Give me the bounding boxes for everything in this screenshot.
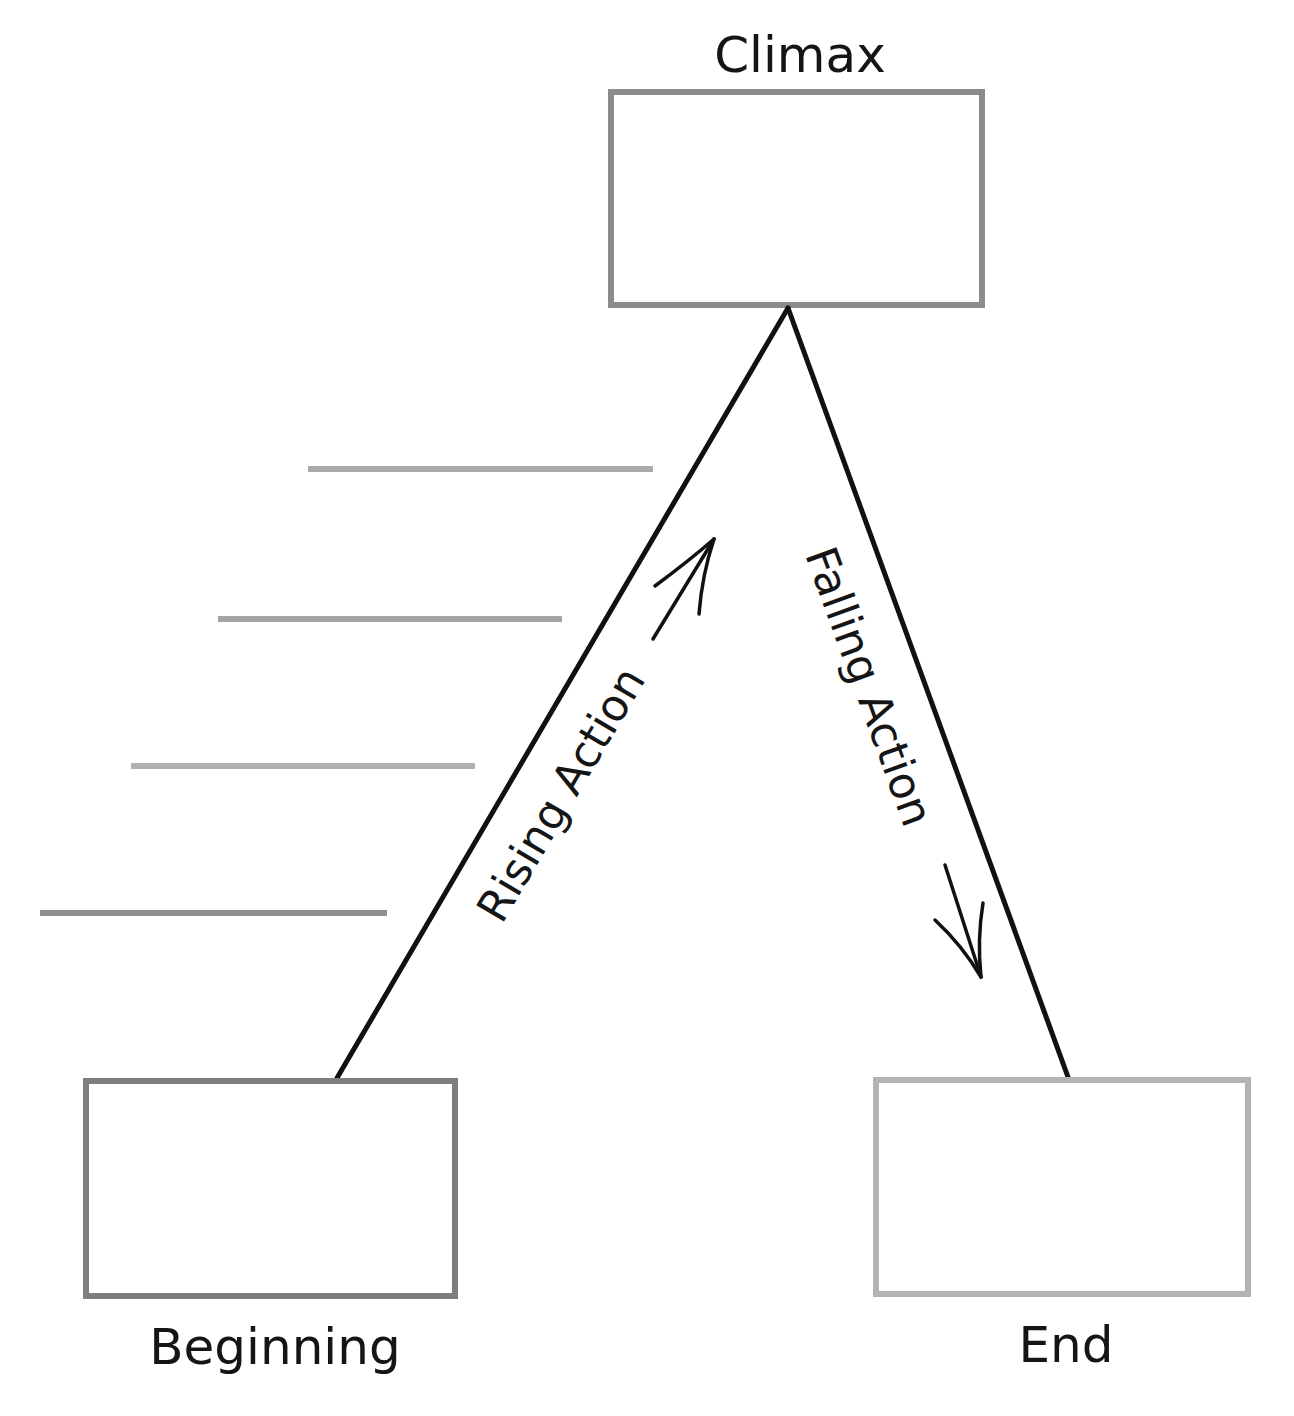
falling-action-line <box>788 308 1068 1077</box>
beginning-box[interactable] <box>83 1078 458 1299</box>
end-box[interactable] <box>873 1077 1251 1297</box>
end-label: End <box>986 1320 1146 1370</box>
rising-arrow-icon <box>653 539 714 639</box>
falling-arrow-icon <box>935 865 983 977</box>
beginning-label: Beginning <box>140 1322 410 1372</box>
rising-action-line <box>337 308 788 1078</box>
